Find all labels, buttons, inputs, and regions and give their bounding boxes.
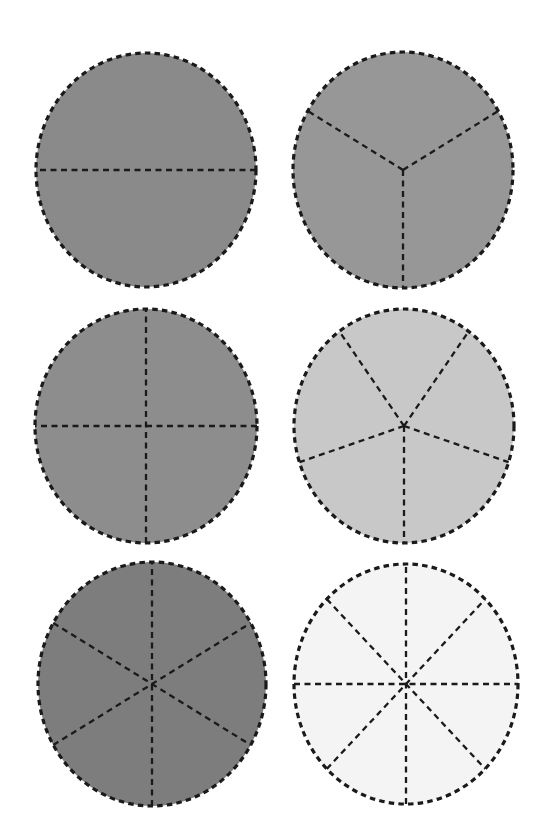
- pie-svg-sixths: [24, 548, 280, 820]
- pie-svg-fifths: [280, 295, 528, 557]
- pie-svg-eighths: [280, 550, 532, 818]
- pie-svg-halves: [22, 39, 270, 301]
- fraction-circle-thirds: [279, 38, 527, 302]
- fraction-circle-fourths: [21, 295, 271, 557]
- fraction-circle-fifths: [280, 295, 528, 557]
- pie-svg-thirds: [279, 38, 527, 302]
- fraction-circle-sixths: [24, 548, 280, 820]
- pie-svg-fourths: [21, 295, 271, 557]
- fraction-circle-eighths: [280, 550, 532, 818]
- fraction-circle-halves: [22, 39, 270, 301]
- fraction-circles-figure: [0, 0, 546, 839]
